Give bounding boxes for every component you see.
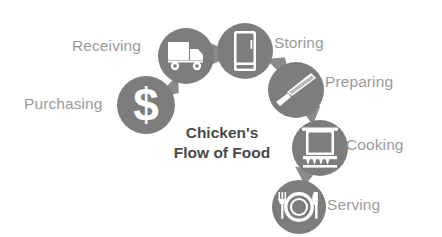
dollar-sign-icon: $	[133, 79, 159, 131]
label-cooking: Cooking	[346, 137, 404, 153]
label-preparing: Preparing	[325, 74, 393, 90]
label-serving: Serving	[327, 197, 380, 213]
refrigerator-icon	[234, 31, 256, 71]
label-purchasing: Purchasing	[24, 96, 103, 112]
diagram-title-line-1: Chicken's	[160, 123, 284, 143]
node-serving[interactable]	[272, 180, 326, 234]
flow-of-food-diagram: $	[0, 0, 442, 237]
node-storing[interactable]	[217, 23, 273, 79]
node-preparing[interactable]	[268, 62, 324, 118]
diagram-title: Chicken's Flow of Food	[160, 123, 284, 163]
node-cooking[interactable]	[292, 120, 348, 176]
svg-text:$: $	[133, 79, 159, 131]
node-receiving[interactable]	[158, 28, 214, 84]
diagram-title-line-2: Flow of Food	[160, 143, 284, 163]
label-receiving: Receiving	[72, 38, 141, 54]
label-storing: Storing	[274, 35, 324, 51]
